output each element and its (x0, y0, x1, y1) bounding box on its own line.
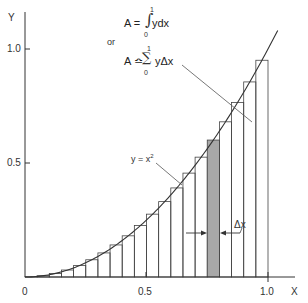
curve-label-leader-line (156, 163, 182, 185)
x-tick-label-0: 0 (22, 286, 28, 297)
area-under-curve-diagram (0, 0, 308, 303)
rectangle (98, 253, 110, 277)
rectangle (232, 102, 244, 277)
sum-lower-limit: 0 (144, 69, 148, 76)
y-axis-label: Y (8, 12, 15, 23)
rectangle (219, 122, 231, 277)
rectangle (147, 214, 159, 277)
curve-label-exponent: 2 (150, 153, 153, 159)
rectangle (134, 226, 146, 277)
rectangle (110, 245, 122, 277)
rectangle (171, 188, 183, 277)
approximation-rectangles (25, 60, 268, 277)
x-axis-label: X (291, 286, 298, 297)
y-tick-label-1: 1.0 (7, 43, 21, 54)
rectangle (195, 157, 207, 277)
formula-line1-lhs: A = (124, 17, 140, 29)
rectangle (256, 60, 268, 277)
delta-arrow-left-head (201, 231, 207, 236)
formula-or: or (107, 37, 115, 47)
formula-leader-line (182, 65, 252, 122)
rectangle (183, 173, 195, 277)
x-tick-label-05: 0.5 (138, 286, 152, 297)
rectangle (122, 236, 134, 277)
curve-label: y = x2 (131, 153, 154, 164)
x-tick-label-1: 1.0 (260, 286, 274, 297)
formula-line1-rhs: ydx (152, 17, 169, 29)
sum-upper-limit: 1 (147, 45, 151, 52)
integral-lower-limit: 0 (144, 31, 148, 38)
y-tick-label-05: 0.5 (7, 157, 21, 168)
curve-label-text: y = x (131, 154, 150, 164)
sum-symbol: ∑ (142, 50, 151, 65)
formula-line2-lhs: A ≏ (124, 55, 143, 68)
formula-line2-rhs: yΔx (155, 55, 173, 67)
delta-x-label: Δx (234, 219, 246, 230)
rectangle (159, 202, 171, 277)
delta-arrow-right-head (220, 231, 226, 236)
shaded-rectangle (207, 140, 219, 277)
integral-upper-limit: 1 (150, 6, 154, 13)
rectangle (244, 82, 256, 277)
